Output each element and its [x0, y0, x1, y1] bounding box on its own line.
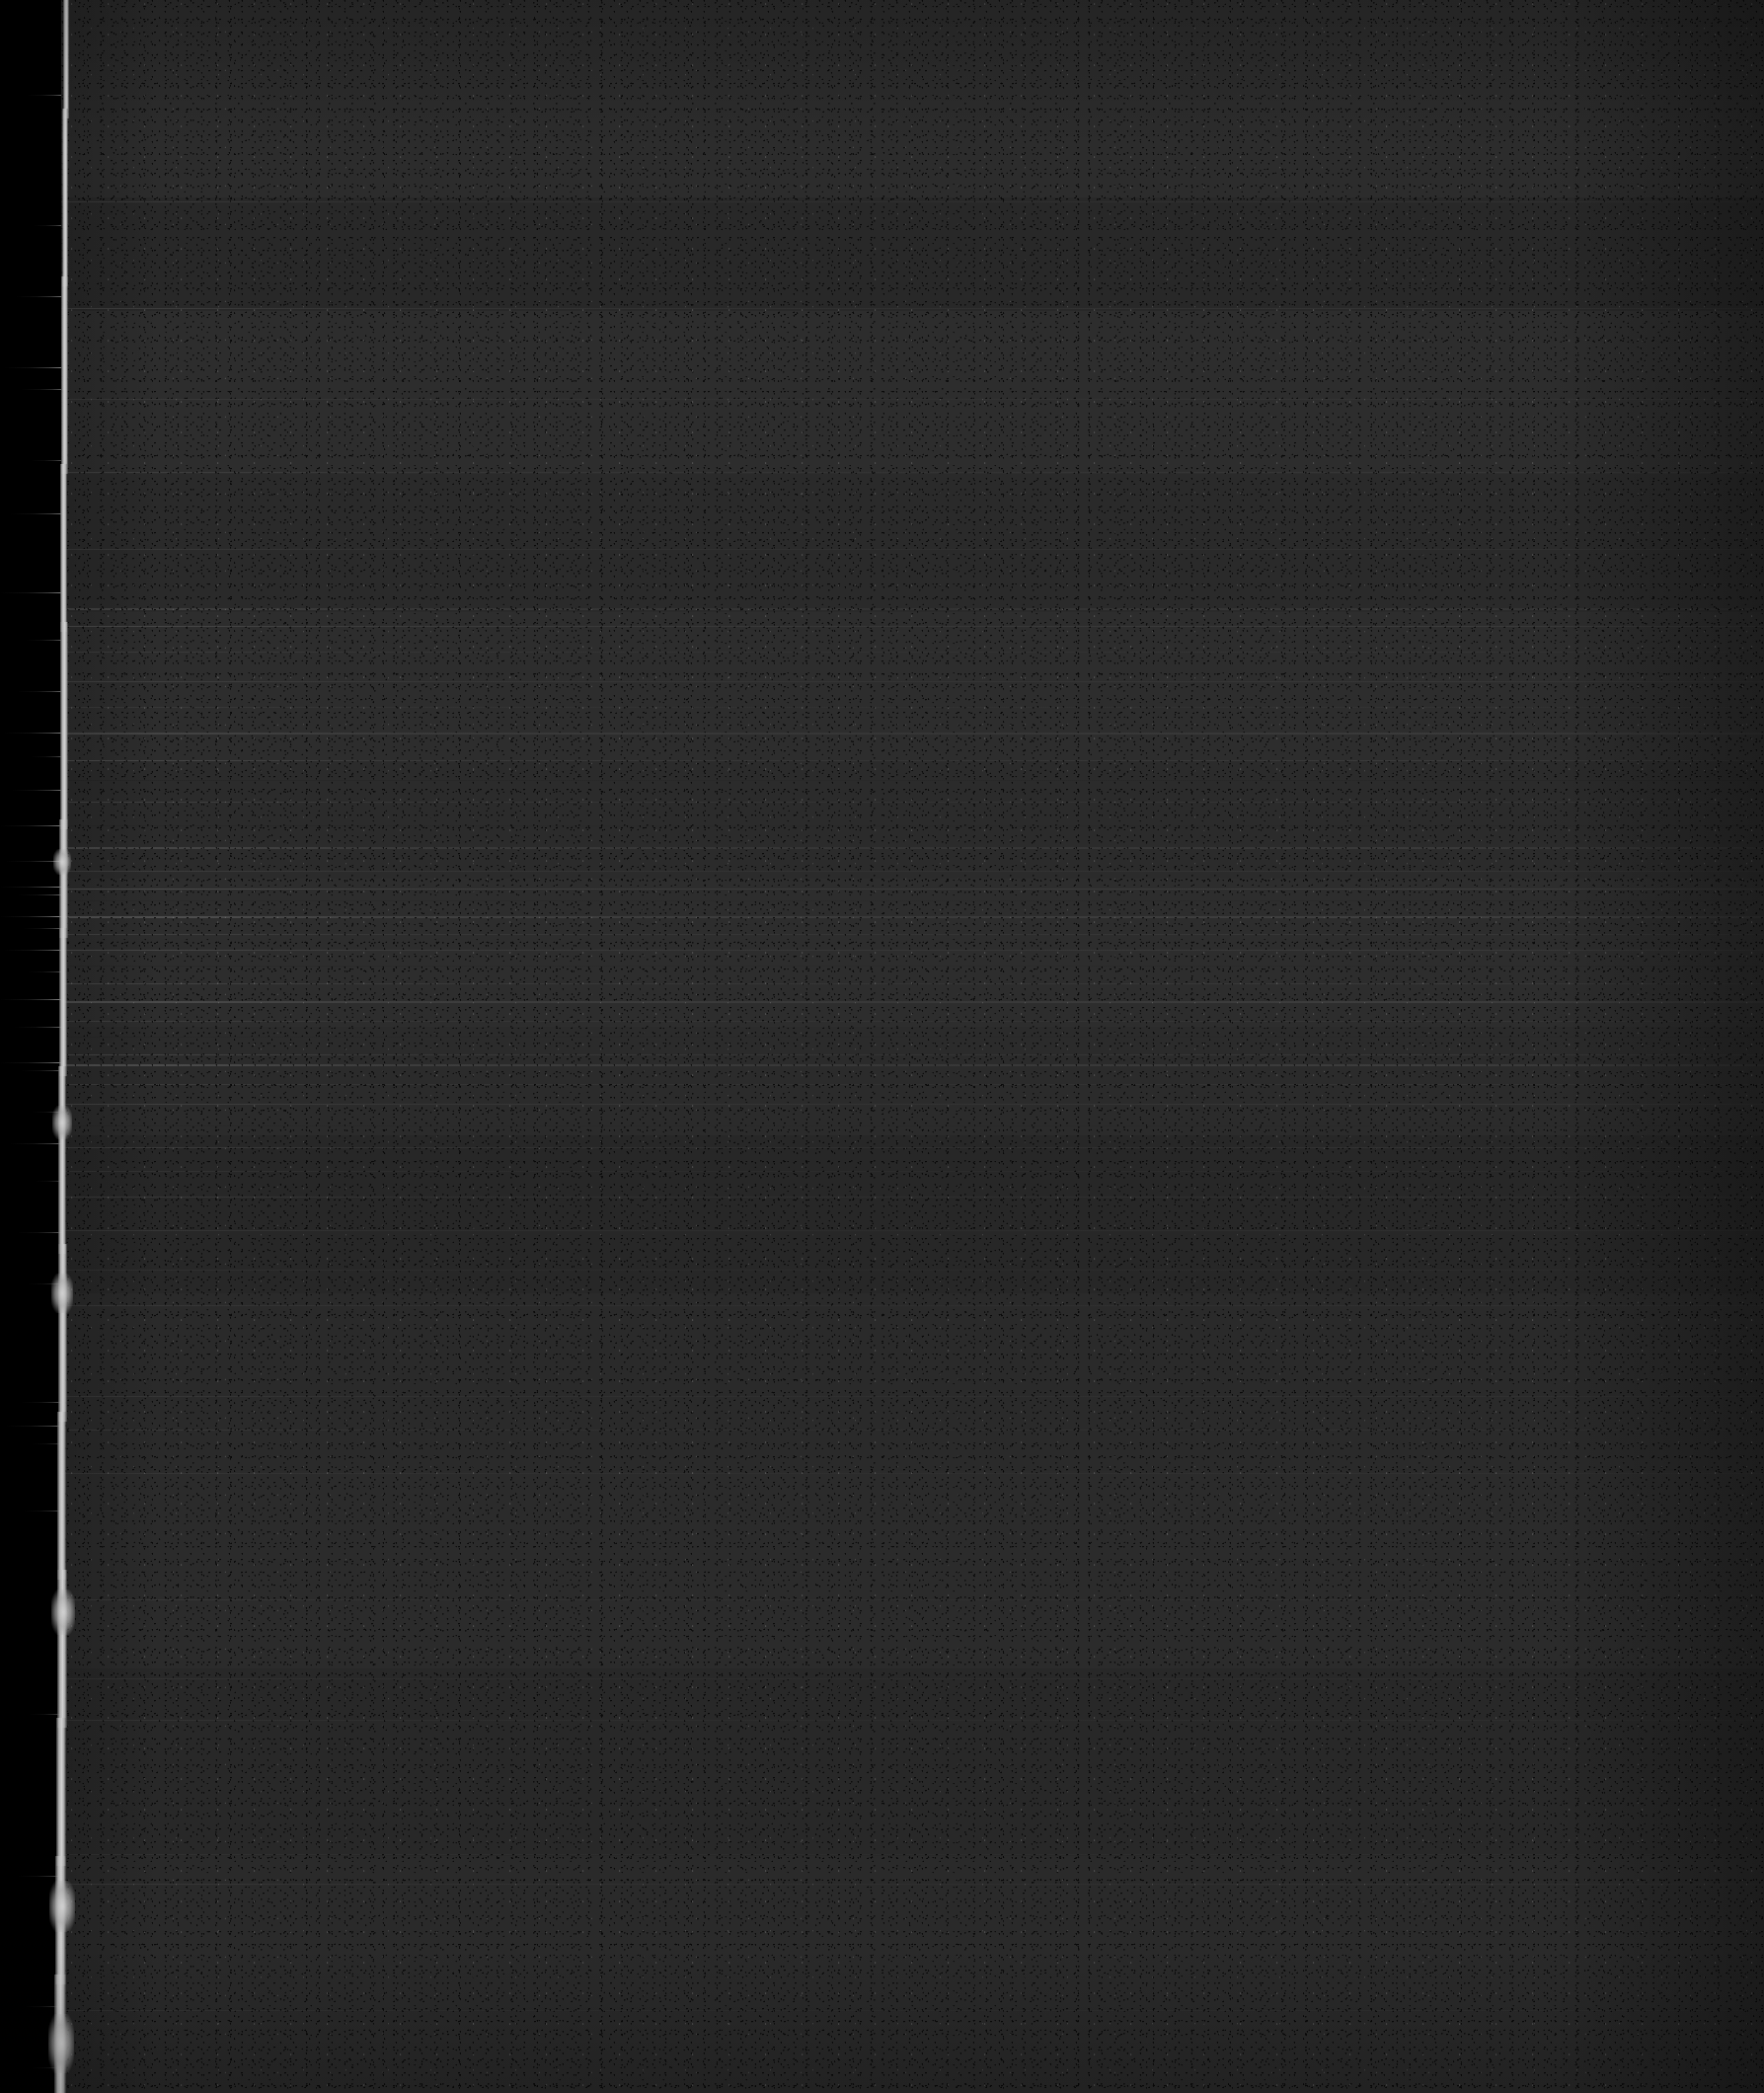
- light-leak-streak: [0, 999, 61, 1000]
- light-leak-streak: [26, 2006, 61, 2007]
- light-leak-streak: [28, 95, 61, 96]
- light-leak-streak: [10, 513, 61, 514]
- light-leak-streak: [18, 1232, 61, 1233]
- document-scan-canvas: [0, 0, 1764, 2093]
- light-leak-streak: [30, 1714, 61, 1715]
- light-leak-streak: [18, 691, 61, 692]
- light-leak-streak: [28, 971, 61, 972]
- light-leak-streak: [22, 389, 61, 390]
- light-leak-streak: [26, 640, 61, 641]
- light-leak-streak: [4, 950, 61, 951]
- light-leak-streak: [32, 1112, 61, 1113]
- light-leak-streak: [28, 1283, 61, 1284]
- light-leak-streak: [18, 894, 61, 895]
- light-leak-streak: [0, 825, 61, 826]
- light-leak-streak: [24, 1511, 61, 1512]
- light-leak-streak: [16, 296, 61, 297]
- film-grain-light: [61, 0, 1764, 2093]
- light-leak-streak: [22, 1402, 61, 1403]
- light-leak-streak: [14, 1027, 61, 1028]
- light-leak-streak: [0, 592, 61, 593]
- light-leak-streak: [22, 1070, 61, 1071]
- page-body: [61, 0, 1764, 2093]
- light-leak-streak: [24, 928, 61, 929]
- light-leak-streak: [12, 790, 61, 791]
- light-leak-streak: [10, 1143, 61, 1144]
- light-leak-streak: [0, 1062, 61, 1063]
- light-leak-streak: [32, 756, 61, 757]
- light-leak-streak: [34, 225, 61, 226]
- light-leak-streak: [36, 1181, 61, 1182]
- light-leak-streak: [18, 1876, 61, 1877]
- left-black-margin: [0, 0, 61, 2093]
- light-leak-streak: [6, 861, 61, 862]
- light-leak-streak: [0, 916, 61, 917]
- light-leak-streak: [4, 733, 61, 734]
- light-leak-streak: [0, 887, 61, 888]
- light-leak-streak: [32, 1443, 61, 1444]
- light-leak-streak: [32, 460, 61, 461]
- light-leak-streak: [32, 2067, 61, 2068]
- light-leak-streak: [4, 367, 61, 368]
- light-leak-streak: [6, 1426, 61, 1427]
